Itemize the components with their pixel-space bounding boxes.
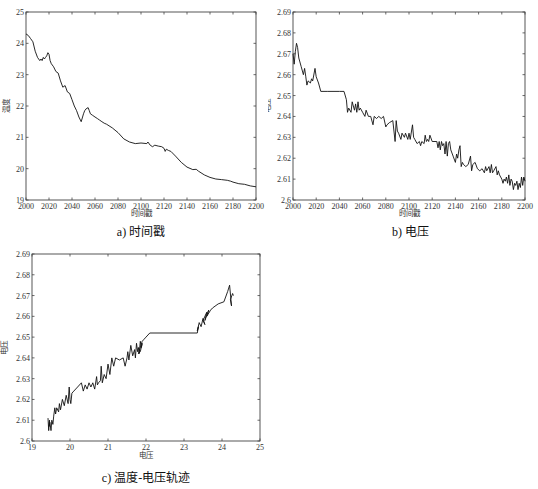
y-tick-label: 2.6 [20, 437, 30, 446]
x-tick-label: 2200 [517, 202, 533, 211]
chart-c-caption: c) 温度-电压轨迹 [30, 468, 262, 486]
y-tick-label: 2.67 [16, 292, 30, 301]
y-tick-label: 2.62 [277, 154, 291, 163]
plot-area [26, 12, 256, 200]
x-tick-label: 2020 [308, 202, 324, 211]
y-tick-label: 2.6 [281, 196, 291, 205]
y-tick-label: 23 [16, 71, 24, 80]
x-tick-label: 2060 [355, 202, 371, 211]
x-tick-label: 2080 [378, 202, 394, 211]
chart-b-caption: b) 电压 [293, 222, 528, 240]
x-tick-label: 2040 [331, 202, 347, 211]
chart-a-plot: 2000202020402060208021002120214021602180… [0, 0, 270, 222]
chart-c-temperature-voltage-trajectory: 192021222324252.62.612.622.632.642.652.6… [0, 242, 270, 489]
y-tick-label: 2.64 [277, 112, 291, 121]
y-tick-label: 2.61 [16, 416, 30, 425]
x-tick-label: 2060 [87, 202, 103, 211]
chart-a-caption: a) 时间戳 [0, 222, 282, 240]
y-tick-label: 25 [16, 8, 24, 17]
y-tick-label: 19 [16, 196, 24, 205]
chart-b-plot: 2000202020402060208021002120214021602180… [268, 0, 538, 222]
x-tick-label: 2180 [225, 202, 241, 211]
chart-b-voltage-vs-timestamp: 2000202020402060208021002120214021602180… [268, 0, 538, 240]
y-tick-label: 2.68 [277, 29, 291, 38]
y-tick-label: 24 [16, 39, 24, 48]
x-tick-label: 2160 [202, 202, 218, 211]
x-tick-label: 25 [256, 443, 264, 452]
x-tick-label: 2120 [424, 202, 440, 211]
x-axis-label: 电压 [139, 450, 154, 460]
x-tick-label: 20 [66, 443, 74, 452]
x-tick-label: 21 [104, 443, 112, 452]
x-axis-label: 时间戳 [131, 208, 153, 218]
y-tick-label: 2.67 [277, 50, 291, 59]
x-tick-label: 2200 [248, 202, 264, 211]
chart-a-temperature-vs-timestamp: 2000202020402060208021002120214021602180… [0, 0, 270, 240]
chart-c-plot: 192021222324252.62.612.622.632.642.652.6… [0, 242, 270, 467]
y-tick-label: 2.65 [277, 92, 291, 101]
x-tick-label: 2160 [471, 202, 487, 211]
y-tick-label: 2.66 [16, 312, 30, 321]
y-tick-label: 2.61 [277, 175, 291, 184]
x-tick-label: 2140 [179, 202, 195, 211]
x-axis-label: 时间戳 [399, 208, 421, 218]
plot-area [32, 254, 260, 441]
x-tick-label: 2120 [156, 202, 172, 211]
y-tick-label: 2.63 [277, 133, 291, 142]
x-tick-label: 2140 [447, 202, 463, 211]
y-tick-label: 2.62 [16, 395, 30, 404]
y-tick-label: 2.64 [16, 354, 30, 363]
y-tick-label: 2.63 [16, 375, 30, 384]
y-axis-label: 电压 [0, 340, 9, 355]
y-axis-label: 电压 [268, 98, 272, 113]
x-tick-label: 2180 [494, 202, 510, 211]
x-tick-label: 2020 [41, 202, 57, 211]
x-tick-label: 23 [180, 443, 188, 452]
y-tick-label: 22 [16, 102, 24, 111]
y-tick-label: 20 [16, 165, 24, 174]
y-tick-label: 2.69 [277, 8, 291, 17]
y-tick-label: 2.66 [277, 71, 291, 80]
y-tick-label: 2.65 [16, 333, 30, 342]
y-tick-label: 21 [16, 133, 24, 142]
y-axis-label: 温度 [1, 98, 11, 113]
x-tick-label: 2080 [110, 202, 126, 211]
x-tick-label: 24 [218, 443, 226, 452]
y-tick-label: 2.68 [16, 271, 30, 280]
y-tick-label: 2.69 [16, 250, 30, 259]
x-tick-label: 2040 [64, 202, 80, 211]
